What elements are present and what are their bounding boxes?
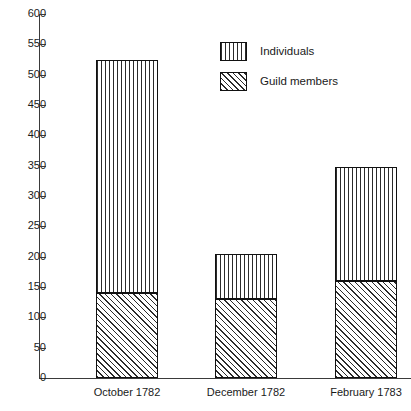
y-axis-tick-mark [39,44,46,45]
bar-group[interactable] [215,14,277,378]
legend-swatch-guild-members-icon [220,72,247,91]
bar-segment-guild-members[interactable] [335,281,397,378]
y-axis-tick-mark [39,166,46,167]
bar-segment-individuals[interactable] [335,167,397,280]
y-axis-tick-mark [39,226,46,227]
legend-label-guild-members: Guild members [260,75,338,88]
y-axis-tick-mark [39,75,46,76]
bar-segment-individuals[interactable] [215,254,277,299]
bar-segment-individuals[interactable] [96,60,158,294]
y-axis-tick-mark [39,348,46,349]
x-axis-category-label: October 1782 [67,386,187,398]
x-axis-line [39,378,411,379]
y-axis-tick-mark [39,196,46,197]
y-axis-tick-mark [39,14,46,15]
y-axis-tick-mark [39,135,46,136]
stacked-bar-chart: 600550500450400350300250200150100500 Oct… [0,0,411,411]
y-axis-tick-mark [39,317,46,318]
bar-segment-guild-members[interactable] [215,299,277,378]
legend-label-individuals: Individuals [260,45,314,58]
bar-group[interactable] [335,14,397,378]
bar-group[interactable] [96,14,158,378]
x-axis-category-label: February 1783 [306,386,411,398]
y-axis-tick-mark [39,287,46,288]
plot-area [39,14,411,378]
legend-swatch-individuals-icon [220,42,247,61]
y-axis-tick-mark [39,257,46,258]
bar-segment-guild-members[interactable] [96,293,158,378]
x-axis-category-label: December 1782 [186,386,306,398]
y-axis-tick-mark [39,105,46,106]
